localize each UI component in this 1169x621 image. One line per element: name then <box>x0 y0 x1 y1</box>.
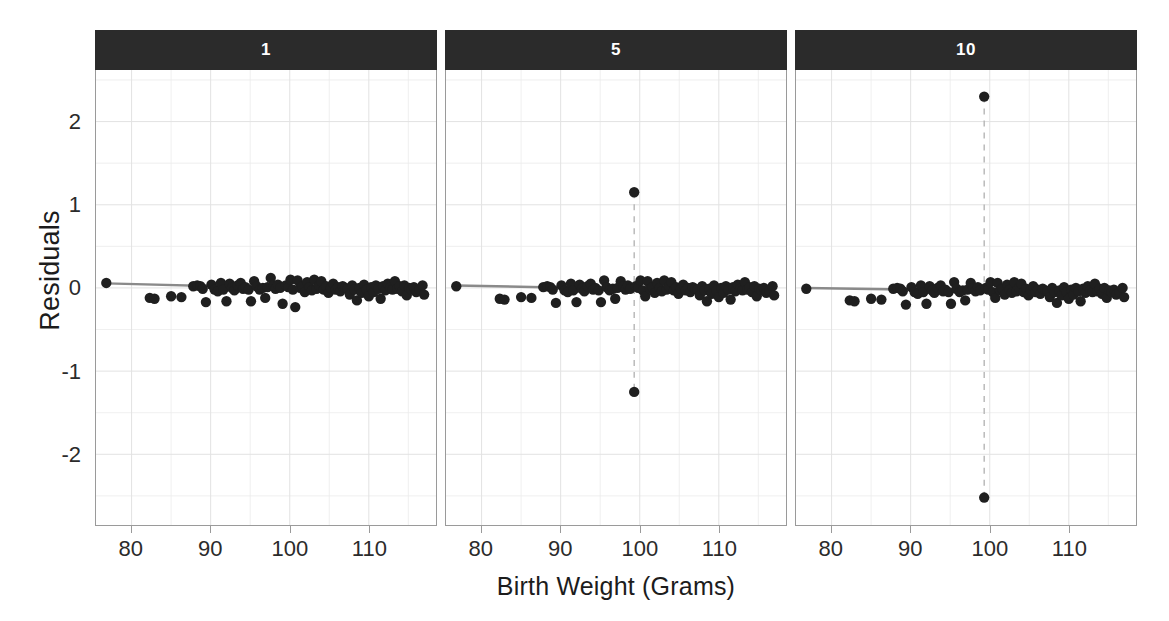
x-tick-label: 90 <box>898 536 922 562</box>
scatter-point <box>866 294 876 304</box>
x-tick-mark <box>990 526 991 533</box>
facet-panel: 10 <box>795 30 1137 526</box>
x-axis-ticks: 8090100110 <box>795 526 1137 572</box>
x-tick-mark <box>369 526 370 533</box>
scatter-point <box>1119 292 1129 302</box>
scatter-point <box>801 284 811 294</box>
scatter-point <box>551 298 561 308</box>
x-tick-label: 80 <box>119 536 143 562</box>
scatter-point <box>246 296 256 306</box>
scatter-point <box>101 278 111 288</box>
scatter-point <box>849 296 859 306</box>
scatter-point <box>277 299 287 309</box>
scatter-point <box>526 293 536 303</box>
x-tick-mark <box>290 526 291 533</box>
x-tick-label: 100 <box>272 536 309 562</box>
scatter-point <box>176 292 186 302</box>
x-tick-label: 90 <box>548 536 572 562</box>
x-tick-mark <box>560 526 561 533</box>
panel-strip-label: 10 <box>795 30 1137 70</box>
x-tick-label: 90 <box>198 536 222 562</box>
panel-strip-label: 1 <box>95 30 437 70</box>
x-axis-ticks: 8090100110 <box>95 526 437 572</box>
x-tick-mark <box>910 526 911 533</box>
scatter-point <box>221 296 231 306</box>
x-tick-mark <box>1069 526 1070 533</box>
scatter-points <box>101 273 429 312</box>
y-tick-label: -1 <box>37 359 81 385</box>
facet-panel: 1 <box>95 30 437 526</box>
facet-panel: 5 <box>445 30 787 526</box>
scatter-point <box>979 492 989 502</box>
y-tick-label: 0 <box>37 275 81 301</box>
scatter-point <box>499 294 509 304</box>
scatter-point <box>876 294 886 304</box>
scatter-point <box>921 299 931 309</box>
scatter-point <box>290 302 300 312</box>
x-tick-label: 110 <box>702 536 737 562</box>
plot-area <box>445 70 787 526</box>
x-tick-mark <box>719 526 720 533</box>
scatter-point <box>419 289 429 299</box>
scatter-point <box>149 294 159 304</box>
x-tick-mark <box>210 526 211 533</box>
y-tick-label: 2 <box>37 109 81 135</box>
plot-area <box>95 70 437 526</box>
panel-strip-label: 5 <box>445 30 787 70</box>
scatter-point <box>767 281 777 291</box>
scatter-point <box>516 292 526 302</box>
scatter-point <box>260 293 270 303</box>
x-tick-mark <box>831 526 832 533</box>
scatter-point <box>979 91 989 101</box>
y-axis-ticks: 210-1-2 <box>31 0 81 621</box>
scatter-point <box>417 280 427 290</box>
y-tick-label: 1 <box>37 192 81 218</box>
x-tick-label: 80 <box>819 536 843 562</box>
scatter-point <box>596 297 606 307</box>
scatter-point <box>901 299 911 309</box>
scatter-point <box>769 290 779 300</box>
scatter-point <box>610 294 620 304</box>
x-tick-mark <box>131 526 132 533</box>
x-tick-label: 80 <box>469 536 493 562</box>
scatter-points <box>801 91 1129 502</box>
x-tick-label: 110 <box>352 536 387 562</box>
residual-scatter-figure: Residuals 210-1-2 Birth Weight (Grams) 1… <box>0 0 1169 621</box>
x-tick-mark <box>640 526 641 533</box>
x-axis-title: Birth Weight (Grams) <box>95 572 1137 601</box>
x-axis-ticks: 8090100110 <box>445 526 787 572</box>
y-tick-label: -2 <box>37 442 81 468</box>
x-tick-label: 100 <box>622 536 659 562</box>
scatter-point <box>166 291 176 301</box>
scatter-point <box>451 281 461 291</box>
plot-area <box>795 70 1137 526</box>
x-tick-label: 110 <box>1052 536 1087 562</box>
scatter-point <box>571 297 581 307</box>
scatter-point <box>629 387 639 397</box>
scatter-point <box>629 187 639 197</box>
scatter-point <box>946 299 956 309</box>
scatter-point <box>201 297 211 307</box>
scatter-point <box>960 295 970 305</box>
x-tick-label: 100 <box>972 536 1009 562</box>
scatter-points <box>451 187 779 397</box>
x-tick-mark <box>481 526 482 533</box>
scatter-point <box>1117 283 1127 293</box>
